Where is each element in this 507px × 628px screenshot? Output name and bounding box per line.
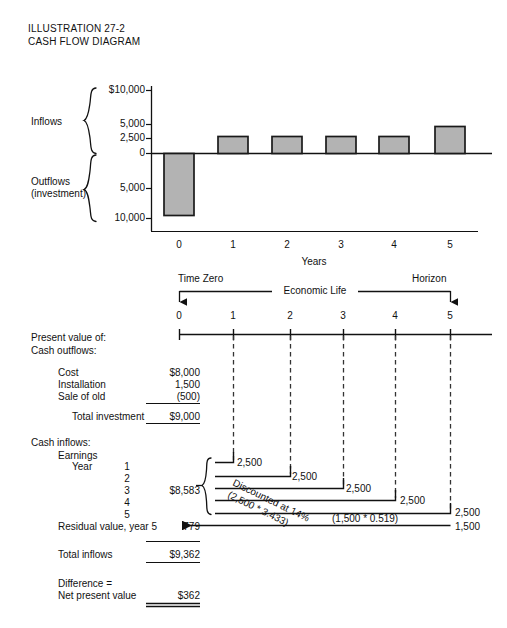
discount-stair-lines (215, 452, 451, 514)
stair-line-year-1 (215, 452, 234, 463)
diagram-linework (0, 0, 507, 628)
stair-line-year-3 (215, 478, 344, 489)
bar-year-1 (218, 137, 248, 154)
schedule-rules (146, 404, 200, 563)
stair-line-year-2 (215, 466, 291, 477)
stair-line-year-4 (215, 490, 396, 501)
timeline-dashed-guides (234, 336, 451, 511)
brace-earnings-present-value (202, 458, 211, 515)
brace-inflows (84, 88, 96, 154)
bar-year-0 (164, 154, 194, 216)
timeline-economic-life-bracket (180, 291, 451, 302)
bar-year-3 (326, 137, 356, 154)
stair-line-year-5 (215, 503, 451, 514)
rule-double-net-present-value (146, 604, 200, 607)
bar-year-2 (272, 137, 302, 154)
bar-year-5 (435, 127, 465, 154)
bar-year-4 (379, 137, 409, 154)
brace-outflows (84, 155, 96, 222)
chart-bars (164, 127, 465, 216)
